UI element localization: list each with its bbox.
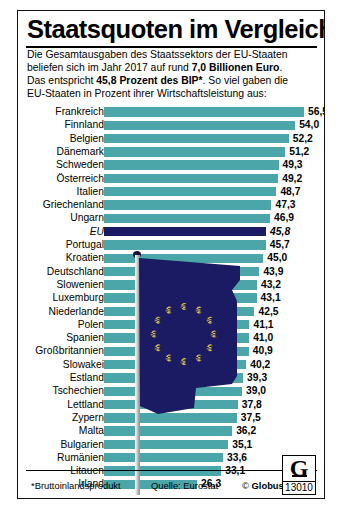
bar-value-label: 39,0 — [246, 385, 266, 396]
bar-value-label: 46,9 — [274, 212, 294, 223]
globus-logo-bar — [292, 475, 307, 477]
chart-row: Bulgarien35,1 — [18, 439, 325, 452]
intro-line: Die Gesamtausgaben des Staatssektors der… — [27, 48, 319, 61]
bar-category-label: Luxemburg — [17, 292, 104, 303]
bar — [104, 121, 295, 130]
intro-paragraph: Die Gesamtausgaben des Staatssektors der… — [27, 48, 319, 100]
bar-value-label: 45,0 — [267, 252, 287, 263]
bar-value-label: 45,8 — [270, 226, 290, 237]
bar-value-label: 52,2 — [293, 133, 313, 144]
intro-line: EU-Staaten in Prozent ihrer Wirtschaftsl… — [27, 87, 319, 100]
intro-line: beliefen sich im Jahr 2017 auf rund 7,0 … — [27, 61, 319, 74]
bar-value-label: 43,2 — [261, 279, 281, 290]
bar-category-label: Spanien — [17, 332, 104, 343]
bar-category-label: Malta — [17, 425, 104, 436]
chart-row: Italien48,7 — [18, 186, 325, 199]
bar — [104, 254, 263, 263]
bar — [104, 214, 270, 223]
infographic-frame: Staatsquoten im Vergleich Die Gesamtausg… — [17, 10, 325, 499]
bar-category-label: Großbritannien — [17, 345, 104, 356]
footer-divider — [26, 470, 317, 472]
bar-category-label: Bulgarien — [17, 439, 104, 450]
bar-value-label: 49,3 — [283, 159, 303, 170]
chart-row: EU45,8 — [18, 226, 325, 239]
bar — [104, 426, 232, 435]
bar-value-label: 47,3 — [275, 199, 295, 210]
bar-value-label: 56,5 — [308, 106, 325, 117]
bar-value-label: 51,2 — [289, 146, 309, 157]
bar-chart: Frankreich56,5Finnland54,0Belgien52,2Dän… — [18, 106, 325, 478]
bar-value-label: 35,1 — [232, 439, 252, 450]
bar — [104, 280, 257, 289]
bar — [104, 160, 279, 169]
bar — [104, 373, 243, 382]
bar — [104, 387, 242, 396]
chart-row: Malta36,2 — [18, 425, 325, 438]
bar — [104, 320, 249, 329]
chart-row: Österreich49,2 — [18, 173, 325, 186]
bar-category-label: Deutschland — [17, 266, 104, 277]
chart-row: Litauen33,1 — [18, 465, 325, 478]
bar — [104, 307, 254, 316]
bar-value-label: 45,7 — [270, 239, 290, 250]
bar-value-label: 41,0 — [253, 332, 273, 343]
bar-category-label: Tschechien — [17, 385, 104, 396]
bar — [104, 187, 276, 196]
bar — [104, 293, 257, 302]
bar-category-label: Schweden — [17, 159, 104, 170]
bar-value-label: 42,5 — [258, 306, 278, 317]
chart-row: Polen41,1 — [18, 319, 325, 332]
bar — [104, 240, 266, 249]
bar-value-label: 37,8 — [242, 399, 262, 410]
bar-category-label: Kroatien — [17, 252, 104, 263]
intro-line: Das entspricht 45,8 Prozent des BIP*. So… — [27, 74, 319, 87]
infographic-root: Staatsquoten im Vergleich Die Gesamtausg… — [0, 0, 342, 508]
bar-value-label: 40,9 — [253, 345, 273, 356]
bar — [104, 347, 249, 356]
bar-value-label: 33,6 — [227, 452, 247, 463]
bar — [104, 466, 221, 475]
page-title: Staatsquoten im Vergleich — [27, 14, 315, 44]
bar-category-label: Niederlande — [17, 306, 104, 317]
bar-value-label: 40,2 — [250, 359, 270, 370]
bar — [104, 440, 228, 449]
bar — [104, 267, 259, 276]
chart-row: Deutschland43,9 — [18, 266, 325, 279]
chart-row: Slowakei40,2 — [18, 359, 325, 372]
bar — [104, 107, 304, 116]
bar-category-label: Frankreich — [17, 106, 104, 117]
bar-category-label: Polen — [17, 319, 104, 330]
bar — [104, 147, 285, 156]
bar-value-label: 43,9 — [263, 266, 283, 277]
bar-category-label: Zypern — [17, 412, 104, 423]
chart-row: Kroatien45,0 — [18, 252, 325, 265]
bar-category-label: Slowenien — [17, 279, 104, 290]
bar — [104, 333, 249, 342]
bar-value-label: 41,1 — [253, 319, 273, 330]
bar-value-label: 37,5 — [241, 412, 261, 423]
chart-row: Zypern37,5 — [18, 412, 325, 425]
bar-category-label: Rumänien — [17, 452, 104, 463]
globus-logo-letter: G — [283, 455, 315, 481]
bar — [104, 174, 278, 183]
chart-row: Belgien52,2 — [18, 133, 325, 146]
bar-category-label: Dänemark — [17, 146, 104, 157]
globus-logo: G 13010 — [282, 455, 316, 495]
bar-category-label: Estland — [17, 372, 104, 383]
bar-value-label: 48,7 — [280, 186, 300, 197]
chart-row: Portugal45,7 — [18, 239, 325, 252]
bar-category-label: Portugal — [17, 239, 104, 250]
copyright-text: © Globus — [242, 480, 284, 491]
chart-row: Frankreich56,5 — [18, 106, 325, 119]
bar-value-label: 54,0 — [299, 119, 319, 130]
bar-category-label: Slowakei — [17, 359, 104, 370]
chart-row: Niederlande42,5 — [18, 306, 325, 319]
bar-category-label: EU — [17, 226, 104, 237]
chart-row: Griechenland47,3 — [18, 199, 325, 212]
chart-row: Rumänien33,6 — [18, 452, 325, 465]
chart-row: Spanien41,0 — [18, 332, 325, 345]
chart-row: Finnland54,0 — [18, 119, 325, 132]
chart-row: Großbritannien40,9 — [18, 345, 325, 358]
bar-category-label: Österreich — [17, 173, 104, 184]
bar — [104, 413, 237, 422]
